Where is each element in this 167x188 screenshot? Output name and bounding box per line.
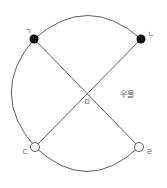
node-rieul — [135, 143, 144, 152]
arc-left — [11, 39, 35, 147]
arc-bottom — [35, 147, 139, 172]
label-nieun: ㄴ — [148, 31, 154, 38]
node-digeut — [31, 143, 40, 152]
label-rieul: ㄹ — [146, 149, 152, 156]
label-center: ㅁ — [84, 99, 90, 106]
node-nieun — [137, 35, 146, 44]
arc-top — [34, 16, 141, 40]
annotation-well: 우물 — [120, 91, 134, 99]
label-digeut: ㄷ — [22, 149, 28, 156]
label-giyeok: ㄱ — [25, 29, 31, 36]
